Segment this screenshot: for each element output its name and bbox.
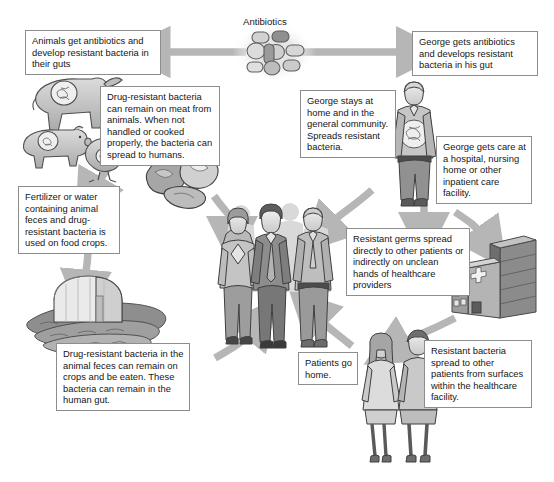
patient-woman [362, 333, 400, 462]
community-people-illustration [218, 203, 333, 348]
george-figure-illustration [392, 82, 436, 206]
box-animals-get-antibiotics: Animals get antibiotics and develop resi… [25, 30, 161, 75]
box-george-gets-antibiotics: George gets antibiotics and develops res… [412, 31, 538, 76]
box-george-stays-home: George stays at home and in the general … [300, 90, 396, 158]
box-george-gets-care: George gets care at a hospital, nursing … [436, 136, 532, 204]
box-resistant-germs-spread: Resistant germs spread directly to other… [346, 228, 470, 296]
box-resistant-bacteria-surfaces: Resistant bacteria spread to other patie… [424, 340, 532, 408]
box-bacteria-on-crops: Drug-resistant bacteria in the animal fe… [56, 343, 190, 411]
box-patients-go-home: Patients go home. [298, 352, 358, 385]
box-fertilizer-or-water: Fertilizer or water containing animal fe… [18, 186, 120, 254]
antibiotic-resistance-diagram: Antibiotics Animals get antibiotics and … [0, 0, 554, 482]
pig-illustration [23, 126, 91, 168]
antibiotic-pills-illustration [232, 22, 316, 82]
antibiotics-label: Antibiotics [243, 16, 287, 27]
box-drug-resistant-meat: Drug-resistant bacteria can remain on me… [100, 86, 220, 166]
